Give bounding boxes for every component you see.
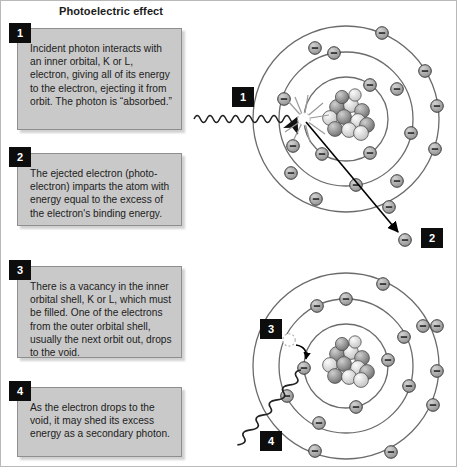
photoelectric-effect-figure: Photoelectric effect bbox=[0, 0, 457, 467]
step-card-1: Incident photon interacts with an inner … bbox=[17, 28, 182, 130]
step-badge-1: 1 bbox=[9, 23, 31, 43]
step-badge-3: 3 bbox=[9, 260, 31, 280]
diagram-badge-ejected-electron: 2 bbox=[421, 228, 443, 248]
top-vacancy bbox=[298, 113, 310, 125]
step-1-text: Incident photon interacts with an inner … bbox=[30, 42, 173, 108]
step-badge-2: 2 bbox=[9, 147, 31, 167]
incident-photon-wave bbox=[194, 116, 296, 123]
step-badge-4: 4 bbox=[9, 381, 31, 401]
top-nucleus bbox=[323, 89, 375, 141]
ejected-electron bbox=[399, 234, 412, 247]
diagram-badge-vacancy-fill: 3 bbox=[260, 319, 282, 339]
diagram-badge-secondary-photon: 4 bbox=[260, 431, 282, 451]
bottom-nucleus bbox=[323, 336, 375, 388]
step-4-text: As the electron drops to the void, it ma… bbox=[30, 401, 173, 441]
step-3-text: There is a vacancy in the inner orbital … bbox=[30, 280, 173, 359]
step-card-2: The ejected electron (photo-electron) im… bbox=[17, 153, 182, 226]
step-2-text: The ejected electron (photo-electron) im… bbox=[30, 167, 173, 220]
top-atom-group bbox=[194, 26, 443, 246]
bottom-vacancy bbox=[283, 334, 295, 346]
diagram-badge-incident-photon: 1 bbox=[232, 87, 254, 107]
electron-ejection-arrow bbox=[306, 122, 398, 232]
step-card-3: There is a vacancy in the inner orbital … bbox=[17, 266, 182, 358]
step-card-4: As the electron drops to the void, it ma… bbox=[17, 387, 182, 457]
